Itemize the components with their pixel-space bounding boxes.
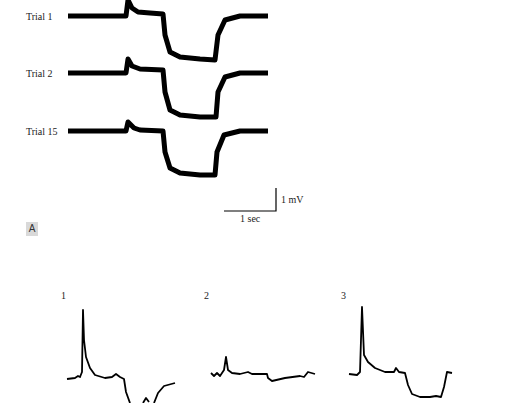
trial-1-trace <box>68 0 268 60</box>
scale-voltage-label: 1 mV <box>281 194 304 205</box>
panel-label: A <box>26 222 38 236</box>
sub-trace-1 <box>67 310 175 403</box>
sub-trace-1-label: 1 <box>61 290 66 301</box>
sub-trace-2-label: 2 <box>204 290 209 301</box>
sub-trace-3 <box>349 307 452 397</box>
sub-trace-2 <box>211 357 315 381</box>
figure: Trial 1 Trial 2 Trial 15 1 mV 1 sec A 1 … <box>0 0 511 403</box>
trial-15-trace <box>68 122 268 175</box>
scale-bar <box>224 188 276 211</box>
trial-2-trace <box>68 59 268 117</box>
traces-plot <box>0 0 511 403</box>
scale-time-label: 1 sec <box>240 213 260 224</box>
sub-trace-3-label: 3 <box>341 290 346 301</box>
